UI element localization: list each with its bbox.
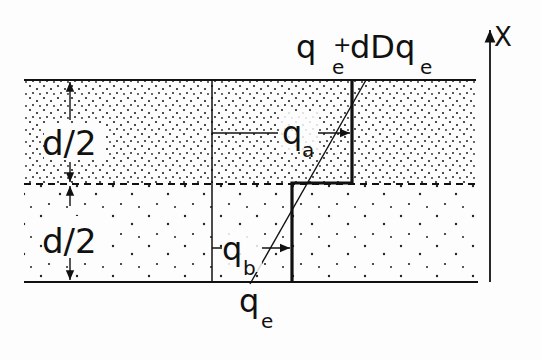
qb-label-sub: b: [243, 256, 256, 280]
top-qe-main: q: [296, 28, 316, 66]
diagram-canvas: d/2 d/2 q a q b q e q e + dDq e X: [0, 0, 541, 360]
top-dDq: dDq: [350, 28, 415, 66]
qa-label-sub: a: [302, 138, 314, 162]
qa-label-main: q: [282, 114, 302, 152]
axis-label-x: X: [494, 22, 512, 52]
upper-thickness-label: d/2: [42, 123, 97, 163]
top-plus: +: [333, 32, 351, 57]
lower-thickness-label: d/2: [42, 221, 97, 261]
top-qe-sub: e: [332, 55, 344, 79]
bottom-qe-sub: e: [261, 309, 273, 333]
layer-diagram: d/2 d/2 q a q b q e q e + dDq e X: [0, 0, 541, 360]
qb-label-main: q: [222, 230, 242, 268]
top-dDq-sub: e: [420, 55, 432, 79]
bottom-qe-main: q: [239, 282, 259, 320]
